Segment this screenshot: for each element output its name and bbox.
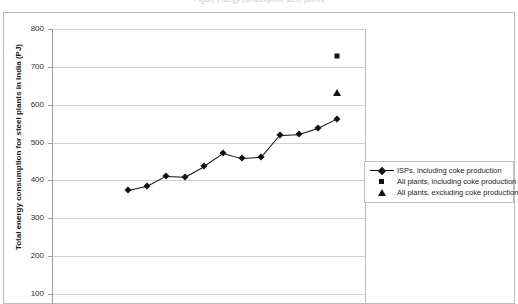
plot-area [52,29,365,304]
data-point-square[interactable] [335,54,340,59]
chart-page: Figure energy consumption steel plants T… [0,0,518,304]
legend-label: ISPs, including coke production [395,166,502,175]
cutoff-caption: Figure energy consumption steel plants [0,0,518,7]
legend-item-all-plants-including[interactable]: All plants, including coke production [369,176,509,187]
y-tick-label: 600 [0,101,44,109]
y-tick-label: 300 [0,214,44,222]
y-tick-label: 500 [0,139,44,147]
legend-item-all-plants-excluding[interactable]: All plants, excluding coke production [369,187,509,198]
y-tick-label: 400 [0,176,44,184]
y-tick-label: 200 [0,252,44,260]
y-tick-label: 100 [0,290,44,298]
legend-label: All plants, including coke production [395,177,516,186]
y-axis-title: Total energy consumption for steel plant… [13,22,25,272]
data-point-triangle[interactable] [333,89,341,96]
line-diamond-icon [369,165,395,176]
y-tick-label: 800 [0,25,44,33]
legend-item-isps[interactable]: ISPs, including coke production [369,165,509,176]
triangle-icon [369,187,395,198]
legend: ISPs, including coke production All plan… [364,161,514,203]
y-tick-label: 700 [0,63,44,71]
legend-label: All plants, excluding coke production [395,188,518,197]
square-icon [369,176,395,187]
